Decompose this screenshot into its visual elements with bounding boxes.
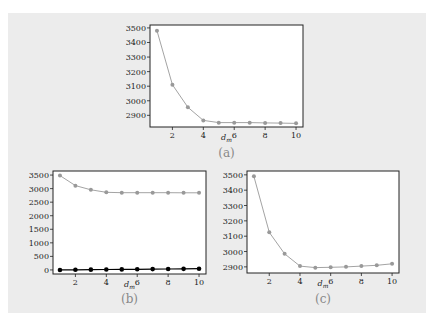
x-tick-label: 2 <box>170 131 175 140</box>
data-point-marker <box>73 184 77 188</box>
subplot-caption: (c) <box>315 292 331 306</box>
data-point-marker <box>298 264 302 268</box>
data-point-marker <box>104 267 109 272</box>
data-point-marker <box>166 267 171 272</box>
x-tick-label: 2 <box>267 277 272 286</box>
x-tick-label: 6 <box>232 131 237 140</box>
y-tick-label: 3300 <box>126 53 146 62</box>
data-point-marker <box>283 252 287 256</box>
x-tick-label: 6 <box>135 278 140 287</box>
y-tick-label: 1000 <box>29 239 49 248</box>
data-point-marker <box>313 266 317 270</box>
x-tick-label: 4 <box>297 277 302 286</box>
data-point-marker <box>217 121 221 125</box>
y-tick-label: 3000 <box>223 248 243 257</box>
y-tick-label: 3100 <box>126 82 146 91</box>
y-tick-label: 3400 <box>126 38 146 47</box>
x-axis-label: dm <box>124 280 135 290</box>
data-point-marker <box>120 191 124 195</box>
y-tick-label: 500 <box>34 252 49 261</box>
x-tick-label: 10 <box>291 131 301 140</box>
subplot-caption: (b) <box>121 292 138 306</box>
data-point-marker <box>73 267 78 272</box>
x-axis-label: dm <box>318 279 329 289</box>
data-point-marker <box>58 174 62 178</box>
data-point-marker <box>201 118 205 122</box>
data-point-marker <box>89 267 94 272</box>
x-tick-label: 4 <box>104 278 109 287</box>
data-point-marker <box>359 264 363 268</box>
data-point-marker <box>252 174 256 178</box>
data-point-marker <box>197 266 202 271</box>
x-axis-label: dm <box>221 133 232 143</box>
subplot-a: 2900300031003200330034003500246810dm(a) <box>126 24 303 160</box>
x-tick-label: 8 <box>359 277 364 286</box>
data-point-marker <box>135 267 140 272</box>
data-point-marker <box>89 188 93 192</box>
y-tick-label: 3400 <box>223 186 243 195</box>
data-point-marker <box>344 265 348 269</box>
plot-area <box>247 171 399 273</box>
y-tick-label: 2000 <box>29 212 49 221</box>
y-tick-label: 0 <box>44 266 49 275</box>
data-point-marker <box>181 267 186 272</box>
data-point-marker <box>329 265 333 269</box>
data-point-marker <box>248 121 252 125</box>
y-tick-label: 1500 <box>29 225 49 234</box>
y-tick-label: 3500 <box>223 171 243 180</box>
data-point-marker <box>166 191 170 195</box>
data-point-marker <box>170 83 174 87</box>
y-tick-label: 3000 <box>126 97 146 106</box>
x-tick-label: 6 <box>328 277 333 286</box>
data-point-marker <box>232 121 236 125</box>
data-point-marker <box>135 191 139 195</box>
y-tick-label: 3500 <box>29 171 49 180</box>
data-point-marker <box>155 29 159 33</box>
y-tick-label: 2500 <box>29 198 49 207</box>
x-tick-label: 8 <box>263 131 268 140</box>
data-point-marker <box>279 121 283 125</box>
data-point-marker <box>263 121 267 125</box>
subplot-caption: (a) <box>218 146 235 160</box>
x-tick-label: 10 <box>387 277 397 286</box>
data-point-marker <box>267 230 271 234</box>
x-tick-label: 4 <box>201 131 206 140</box>
data-point-marker <box>294 121 298 125</box>
y-tick-label: 2900 <box>126 111 146 120</box>
data-point-marker <box>150 267 155 272</box>
subplot-c: 2900300031003200330034003500246810dm(c) <box>223 171 399 306</box>
y-tick-label: 2900 <box>223 263 243 272</box>
plot-area <box>150 25 303 127</box>
x-tick-label: 10 <box>194 278 204 287</box>
data-point-marker <box>151 191 155 195</box>
data-point-marker <box>375 263 379 267</box>
data-point-marker <box>182 191 186 195</box>
data-point-marker <box>390 262 394 266</box>
y-tick-label: 3100 <box>223 232 243 241</box>
data-point-marker <box>58 268 63 273</box>
subplot-b: 0500100015002000250030003500246810dm(b) <box>29 171 206 306</box>
data-point-marker <box>119 267 124 272</box>
figure: 2900300031003200330034003500246810dm(a) … <box>0 0 436 324</box>
y-tick-label: 3200 <box>223 217 243 226</box>
y-tick-label: 3200 <box>126 68 146 77</box>
x-tick-label: 8 <box>166 278 171 287</box>
x-tick-label: 2 <box>73 278 78 287</box>
data-point-marker <box>197 191 201 195</box>
data-point-marker <box>186 105 190 109</box>
data-point-marker <box>104 190 108 194</box>
y-tick-label: 3500 <box>126 24 146 33</box>
y-tick-label: 3000 <box>29 185 49 194</box>
y-tick-label: 3300 <box>223 202 243 211</box>
